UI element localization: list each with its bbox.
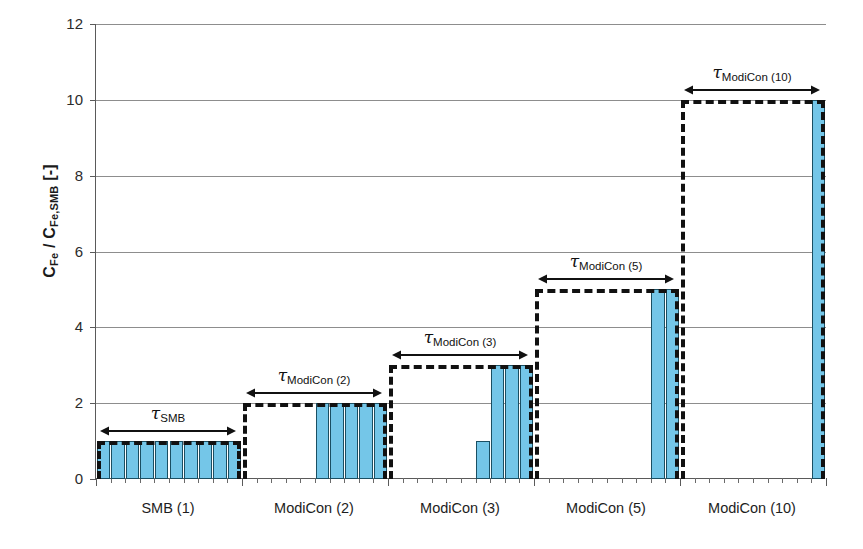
bar [170,441,183,479]
x-tick-minor [797,478,798,483]
tau-modicon-10-arrow [684,83,820,97]
bar [213,441,226,479]
y-tick-label-0: 0 [39,471,83,486]
x-tick-major-3 [534,478,535,486]
bar [140,441,153,479]
x-tick-minor [403,478,404,483]
bar [520,365,533,479]
gridline-y-6 [96,252,826,253]
tau-symbol: τ [712,62,721,82]
x-axis-group-label: ModiCon (10) [679,500,825,516]
x-tick-minor [549,478,550,483]
y-tick-mark-12 [90,24,96,25]
x-tick-minor [300,478,301,483]
bar [316,403,329,479]
tau-modicon-5-arrow [538,272,674,286]
y-axis-title: CFe / CFe,SMB [-] [41,11,59,431]
x-tick-minor [271,478,272,483]
x-tick-minor [286,478,287,483]
gridline-y-12 [96,24,826,25]
tau-symbol: τ [151,403,160,423]
x-axis-group-label: ModiCon (2) [241,500,387,516]
gridline-y-8 [96,176,826,177]
x-tick-minor [461,478,462,483]
bar [476,441,489,479]
x-tick-major-0 [96,478,97,486]
bar [126,441,139,479]
bar [491,365,504,479]
x-tick-minor [782,478,783,483]
y-tick-label-2: 2 [39,395,83,410]
tau-modicon-10-label: τModiCon (10) [679,62,825,82]
x-tick-minor [578,478,579,483]
bar [505,365,518,479]
gridline-y-10 [96,100,826,101]
tau-subscript: ModiCon (2) [287,374,350,386]
y-tick-label-8: 8 [39,168,83,183]
y-tick-label-10: 10 [39,92,83,107]
x-tick-minor [768,478,769,483]
x-axis-group-label: SMB (1) [95,500,241,516]
bar [651,289,664,479]
x-tick-minor [753,478,754,483]
x-tick-minor [724,478,725,483]
bar [155,441,168,479]
x-tick-major-5 [826,478,827,486]
tau-smb-arrow [100,424,236,438]
x-tick-minor [592,478,593,483]
y-axis-title-c2: C [41,227,58,239]
x-tick-minor [695,478,696,483]
y-axis-title-sub2: Fe,SMB [48,185,60,227]
tau-modicon-5-label: τModiCon (5) [533,251,679,271]
bar [184,441,197,479]
bar [359,403,372,479]
chart-figure: CFe / CFe,SMB [-] 024681012SMB (1)τSMBMo… [0,0,863,549]
tau-subscript: ModiCon (10) [722,71,792,83]
y-tick-label-12: 12 [39,16,83,31]
tau-modicon-2-label: τModiCon (2) [241,365,387,385]
y-tick-label-4: 4 [39,319,83,334]
bar [374,403,387,479]
tau-smb-label: τSMB [95,403,241,423]
y-tick-mark-4 [90,327,96,328]
bar [345,403,358,479]
x-tick-minor [738,478,739,483]
tau-symbol: τ [424,327,433,347]
bar [97,441,110,479]
bar [812,100,825,479]
tau-modicon-3-arrow [392,348,528,362]
x-axis-group-label: ModiCon (3) [387,500,533,516]
x-tick-minor [417,478,418,483]
x-tick-major-2 [388,478,389,486]
bar [330,403,343,479]
tau-symbol: τ [570,251,579,271]
y-tick-mark-8 [90,176,96,177]
cycle-outline-box [681,100,825,479]
y-axis-title-c1: C [41,266,58,278]
x-tick-minor [432,478,433,483]
tau-subscript: SMB [160,412,185,424]
tau-subscript: ModiCon (5) [579,260,642,272]
x-tick-minor [607,478,608,483]
bar [199,441,212,479]
tau-subscript: ModiCon (3) [433,336,496,348]
x-tick-minor [622,478,623,483]
x-tick-minor [636,478,637,483]
x-tick-minor [709,478,710,483]
x-tick-minor [563,478,564,483]
tau-symbol: τ [278,365,287,385]
x-tick-minor [446,478,447,483]
x-tick-major-4 [680,478,681,486]
bar [666,289,679,479]
tau-modicon-3-label: τModiCon (3) [387,327,533,347]
y-tick-mark-10 [90,100,96,101]
tau-modicon-2-arrow [246,386,382,400]
y-tick-mark-6 [90,252,96,253]
x-tick-minor [257,478,258,483]
bar [111,441,124,479]
x-axis-group-label: ModiCon (5) [533,500,679,516]
y-tick-label-6: 6 [39,244,83,259]
bar [228,441,241,479]
x-tick-major-1 [242,478,243,486]
